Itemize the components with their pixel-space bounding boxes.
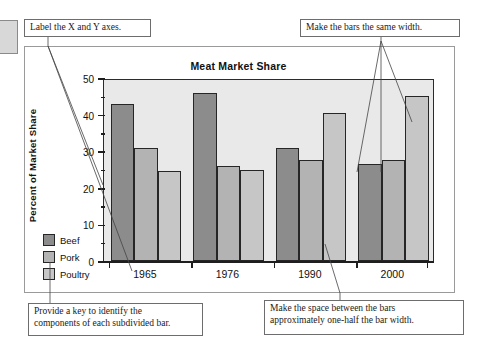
bar-pork-1976: [217, 166, 241, 261]
callout-label-axes: Label the X and Y axes.: [24, 19, 151, 37]
y-axis-tick: [98, 78, 105, 80]
legend-label-poultry: Poultry: [60, 269, 90, 280]
x-axis-tick: [109, 262, 111, 268]
bar-pork-1965: [134, 148, 158, 261]
legend-swatch-poultry: [43, 268, 55, 280]
y-axis-tick: [98, 188, 105, 190]
x-axis-tick-label-1976: 1976: [197, 268, 257, 280]
y-axis: 01020304050: [99, 79, 105, 262]
y-axis-tick-label: 40: [68, 110, 94, 121]
bar-pork-2000: [382, 160, 406, 261]
bar-beef-1990: [276, 148, 300, 261]
y-axis-tick-label: 20: [68, 183, 94, 194]
bar-poultry-1990: [323, 113, 347, 261]
legend-label-beef: Beef: [60, 235, 80, 246]
bar-poultry-1965: [158, 171, 182, 261]
y-axis-minor-tick: [101, 170, 105, 171]
x-axis-tick: [274, 262, 276, 268]
chart-legend: BeefPorkPoultry: [43, 232, 90, 283]
x-axis-tick: [427, 262, 429, 268]
legend-swatch-beef: [43, 234, 55, 246]
plot-area: [103, 79, 434, 262]
y-axis-tick-label: 50: [68, 74, 94, 85]
y-axis-minor-tick: [101, 133, 105, 134]
legend-item-pork: Pork: [43, 249, 90, 265]
y-axis-minor-tick: [101, 97, 105, 98]
y-axis-tick: [98, 225, 105, 227]
legend-item-beef: Beef: [43, 232, 90, 248]
x-axis-tick-label-1965: 1965: [115, 268, 175, 280]
y-axis-title: Percent of Market Share: [27, 86, 38, 246]
y-axis-tick: [98, 151, 105, 153]
callout-provide-key: Provide a key to identify the components…: [28, 303, 203, 336]
bar-beef-1976: [193, 93, 217, 261]
bar-beef-1965: [111, 104, 135, 261]
legend-item-poultry: Poultry: [43, 266, 90, 282]
y-axis-minor-tick: [101, 206, 105, 207]
x-axis-tick: [356, 262, 358, 268]
callout-bar-width: Make the bars the same width.: [300, 19, 460, 37]
y-axis-minor-tick: [101, 243, 105, 244]
page-edge-block: [0, 20, 18, 54]
bar-beef-2000: [358, 164, 382, 261]
x-axis-line: [103, 261, 434, 263]
callout-bar-spacing: Make the space between the bars approxim…: [264, 300, 464, 335]
x-axis-tick: [191, 262, 193, 268]
bar-poultry-1976: [240, 170, 264, 262]
y-axis-tick: [98, 115, 105, 117]
legend-label-pork: Pork: [60, 252, 80, 263]
y-axis-tick-label: 10: [68, 220, 94, 231]
chart-title: Meat Market Share: [0, 60, 477, 72]
legend-swatch-pork: [43, 251, 55, 263]
bar-poultry-2000: [405, 96, 429, 261]
x-axis-tick-label-1990: 1990: [280, 268, 340, 280]
x-axis-tick-label-2000: 2000: [362, 268, 422, 280]
y-axis-tick-label: 30: [68, 147, 94, 158]
bar-pork-1990: [299, 160, 323, 261]
